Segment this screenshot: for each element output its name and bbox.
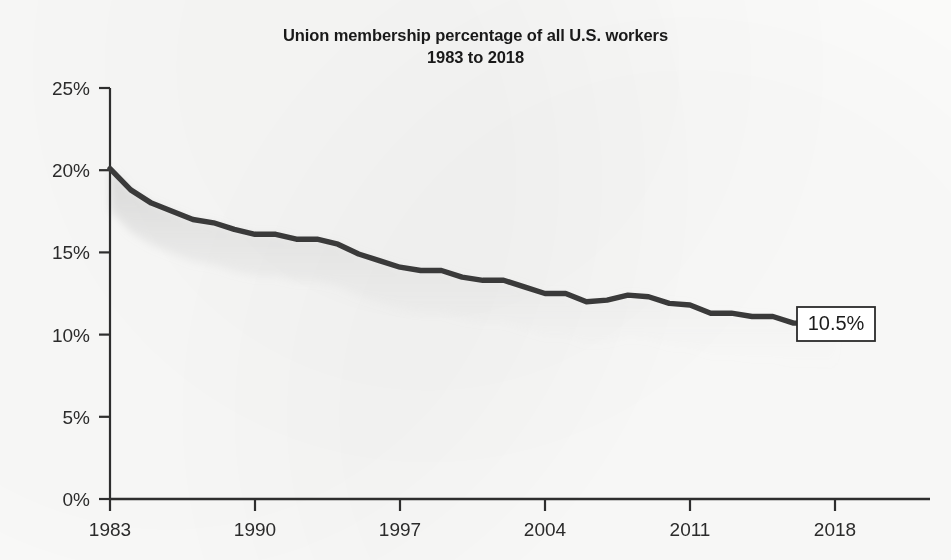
x-axis-tick-label: 1997 bbox=[379, 519, 421, 540]
y-axis-tick-label: 25% bbox=[52, 78, 90, 99]
x-axis-tick-label: 2018 bbox=[814, 519, 856, 540]
x-axis-tick-label: 1990 bbox=[234, 519, 276, 540]
y-axis-tick-label: 0% bbox=[63, 489, 91, 510]
x-axis-tick-label: 1983 bbox=[89, 519, 131, 540]
end-value-label-text: 10.5% bbox=[808, 312, 865, 334]
x-axis-ticks: 198319901997200420112018 bbox=[89, 499, 856, 540]
y-axis-tick-label: 10% bbox=[52, 325, 90, 346]
chart-container: Union membership percentage of all U.S. … bbox=[0, 0, 951, 560]
y-axis-tick-label: 5% bbox=[63, 407, 91, 428]
end-value-label: 10.5% bbox=[797, 307, 875, 341]
y-axis-tick-label: 15% bbox=[52, 242, 90, 263]
y-axis-tick-label: 20% bbox=[52, 160, 90, 181]
y-axis-ticks: 0%5%10%15%20%25% bbox=[52, 78, 110, 510]
line-chart-plot: 0%5%10%15%20%25% 19831990199720042011201… bbox=[0, 0, 951, 560]
x-axis-tick-label: 2004 bbox=[524, 519, 567, 540]
line-shadow bbox=[110, 169, 835, 369]
x-axis-tick-label: 2011 bbox=[670, 519, 711, 540]
